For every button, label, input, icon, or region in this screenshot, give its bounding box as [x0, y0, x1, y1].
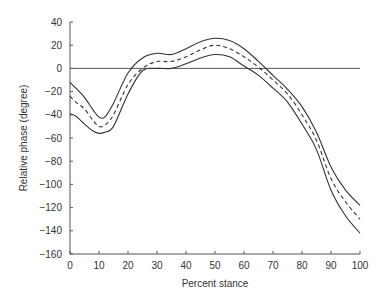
- chart: 40200−20−40−60−80−100−120−140−160 010203…: [0, 0, 384, 303]
- y-tick-label: 40: [51, 17, 63, 28]
- x-tick-label: 20: [122, 260, 134, 271]
- series-line-mean-sd: [70, 38, 360, 205]
- x-tick-label: 60: [238, 260, 250, 271]
- y-tick-label: −80: [45, 156, 62, 167]
- x-tick-label: 80: [296, 260, 308, 271]
- series-layer: [70, 38, 360, 233]
- x-tick-label: 70: [267, 260, 279, 271]
- y-tick-label: −100: [39, 179, 62, 190]
- y-tick-label: 20: [51, 40, 63, 51]
- y-tick-label: −40: [45, 109, 62, 120]
- x-tick-label: 10: [93, 260, 105, 271]
- y-tick-label: 0: [56, 63, 62, 74]
- y-tick-label: −20: [45, 86, 62, 97]
- x-tick-label: 100: [352, 260, 369, 271]
- x-tick-label: 50: [209, 260, 221, 271]
- y-tick-label: −160: [39, 249, 62, 260]
- x-axis-title: Percent stance: [182, 278, 249, 289]
- x-axis: 0102030405060708090100: [67, 251, 369, 271]
- y-tick-label: −140: [39, 225, 62, 236]
- x-tick-label: 0: [67, 260, 73, 271]
- y-tick-label: −120: [39, 202, 62, 213]
- y-tick-label: −60: [45, 133, 62, 144]
- series-line-mean-sd: [70, 54, 360, 233]
- y-axis: 40200−20−40−60−80−100−120−140−160: [39, 17, 73, 260]
- x-tick-label: 30: [151, 260, 163, 271]
- x-tick-label: 90: [325, 260, 337, 271]
- x-tick-label: 40: [180, 260, 192, 271]
- y-axis-title: Relative phase (degree): [18, 85, 29, 192]
